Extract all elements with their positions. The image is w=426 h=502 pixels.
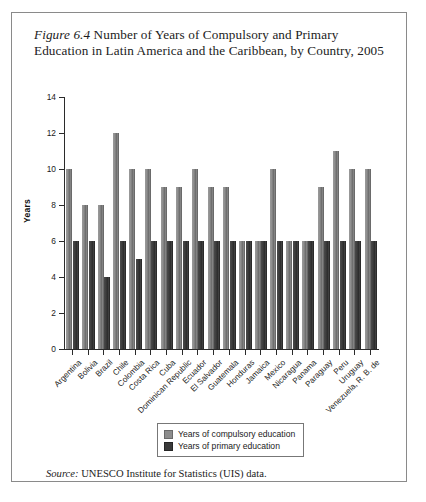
bar-compulsory — [223, 187, 229, 349]
bar-group — [222, 97, 235, 349]
bar-group — [175, 97, 188, 349]
bar-primary — [371, 241, 377, 349]
bar-compulsory — [66, 169, 72, 349]
bar-compulsory — [98, 205, 104, 349]
bar-compulsory — [333, 151, 339, 349]
bar-primary — [214, 241, 220, 349]
bar-compulsory — [161, 187, 167, 349]
x-axis-tick — [323, 350, 324, 355]
bar-compulsory — [255, 241, 261, 349]
bar-compulsory — [192, 169, 198, 349]
bar-primary — [308, 241, 314, 349]
bar-group — [97, 97, 110, 349]
bar-primary — [198, 241, 204, 349]
bar-compulsory — [302, 241, 308, 349]
bar-group — [207, 97, 220, 349]
x-axis-tick — [370, 350, 371, 355]
bar-group — [254, 97, 267, 349]
bar-primary — [340, 241, 346, 349]
bar-primary — [104, 277, 110, 349]
bar-primary — [230, 241, 236, 349]
x-axis-tick — [119, 350, 120, 355]
x-axis-tick — [276, 350, 277, 355]
bars-container — [64, 97, 378, 349]
bar-group — [317, 97, 330, 349]
bar-primary — [136, 259, 142, 349]
y-axis-tick-label: 4 — [12, 272, 56, 282]
bar-compulsory — [176, 187, 182, 349]
bar-primary — [89, 241, 95, 349]
bar-primary — [167, 241, 173, 349]
x-axis-tick — [72, 350, 73, 355]
legend-item-primary: Years of primary education — [164, 440, 295, 452]
x-axis-tick — [150, 350, 151, 355]
y-axis-tick-label: 8 — [12, 200, 56, 210]
bar-group — [364, 97, 377, 349]
legend-item-compulsory: Years of compulsory education — [164, 428, 295, 440]
x-axis-line — [64, 349, 379, 350]
x-axis-tick — [103, 350, 104, 355]
bar-group — [144, 97, 157, 349]
bar-primary — [355, 241, 361, 349]
bar-compulsory — [318, 187, 324, 349]
legend-label-primary: Years of primary education — [178, 441, 280, 451]
x-axis-tick — [135, 350, 136, 355]
x-axis-tick — [197, 350, 198, 355]
bar-group — [348, 97, 361, 349]
legend-label-compulsory: Years of compulsory education — [178, 429, 295, 439]
bar-primary — [261, 241, 267, 349]
bar-compulsory — [349, 169, 355, 349]
bar-primary — [293, 241, 299, 349]
y-axis-tick-label: 6 — [12, 236, 56, 246]
bar-primary — [183, 241, 189, 349]
bar-primary — [151, 241, 157, 349]
x-axis-tick — [354, 350, 355, 355]
x-axis-tick — [307, 350, 308, 355]
bar-compulsory — [365, 169, 371, 349]
source-label: Source: — [46, 468, 79, 479]
chart-plot: Years 02468101214 ArgentinaBoliviaBrazil… — [12, 13, 408, 483]
y-axis-tick-label: 2 — [12, 308, 56, 318]
bar-compulsory — [208, 187, 214, 349]
figure-frame: Figure 6.4 Number of Years of Compulsory… — [11, 12, 407, 482]
x-axis-tick — [260, 350, 261, 355]
x-axis-tick — [339, 350, 340, 355]
bar-primary — [324, 241, 330, 349]
x-axis-tick — [229, 350, 230, 355]
bar-group — [160, 97, 173, 349]
bar-compulsory — [270, 169, 276, 349]
bar-group — [238, 97, 251, 349]
bar-compulsory — [82, 205, 88, 349]
x-axis-tick — [292, 350, 293, 355]
bar-group — [81, 97, 94, 349]
bar-primary — [246, 241, 252, 349]
bar-group — [285, 97, 298, 349]
x-axis-tick — [166, 350, 167, 355]
bar-compulsory — [239, 241, 245, 349]
y-axis-tick-label: 14 — [12, 92, 56, 102]
bar-group — [112, 97, 125, 349]
bar-compulsory — [129, 169, 135, 349]
source-note: Source: UNESCO Institute for Statistics … — [46, 468, 267, 479]
bar-compulsory — [286, 241, 292, 349]
bar-group — [301, 97, 314, 349]
y-axis-tick-label: 12 — [12, 128, 56, 138]
bar-group — [128, 97, 141, 349]
bar-group — [269, 97, 282, 349]
x-axis-tick — [245, 350, 246, 355]
x-axis-tick — [182, 350, 183, 355]
y-axis-tick-label: 10 — [12, 164, 56, 174]
chart-legend: Years of compulsory education Years of p… — [157, 423, 304, 457]
legend-swatch-compulsory-icon — [164, 430, 173, 439]
bar-group — [191, 97, 204, 349]
source-text: UNESCO Institute for Statistics (UIS) da… — [79, 468, 267, 479]
y-axis-tick-label: 0 — [12, 344, 56, 354]
x-axis-tick — [213, 350, 214, 355]
bar-primary — [73, 241, 79, 349]
bar-compulsory — [113, 133, 119, 349]
bar-group — [332, 97, 345, 349]
bar-primary — [277, 241, 283, 349]
y-axis-tick — [59, 349, 65, 350]
bar-primary — [120, 241, 126, 349]
bar-compulsory — [145, 169, 151, 349]
